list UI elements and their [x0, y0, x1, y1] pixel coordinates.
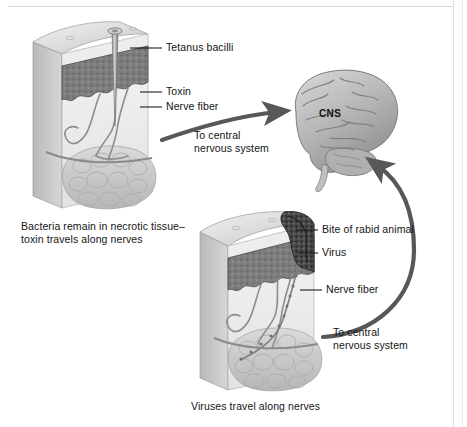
arrow-label-rabies-line1: To central: [333, 326, 380, 339]
arrow-label-tetanus-line2: nervous system: [194, 142, 269, 155]
arrow-label-rabies-line2: nervous system: [333, 339, 408, 352]
figure-container: Tetanus bacilli Toxin Nerve fiber To cen…: [0, 0, 467, 427]
caption-rabies: Viruses travel along nerves: [191, 400, 320, 413]
brain-cns-label: CNS: [319, 107, 341, 120]
rabies-skin-block-art: [200, 212, 322, 391]
label-toxin: Toxin: [166, 85, 191, 98]
caption-tetanus-line2: toxin travels along nerves: [21, 233, 143, 246]
label-nerve-fiber-lower: Nerve fiber: [326, 283, 378, 296]
diagram-artwork: [0, 0, 467, 427]
label-nerve-fiber-upper: Nerve fiber: [166, 100, 218, 113]
tetanus-skin-block-art: [33, 22, 156, 209]
caption-tetanus-line1: Bacteria remain in necrotic tissue–: [21, 220, 185, 233]
label-virus: Virus: [322, 246, 346, 259]
arrow-label-tetanus-line1: To central: [194, 129, 241, 142]
brain-art: [295, 70, 397, 191]
label-tetanus-bacilli: Tetanus bacilli: [166, 41, 233, 54]
label-bite-of-rabid-animal: Bite of rabid animal: [322, 223, 414, 236]
